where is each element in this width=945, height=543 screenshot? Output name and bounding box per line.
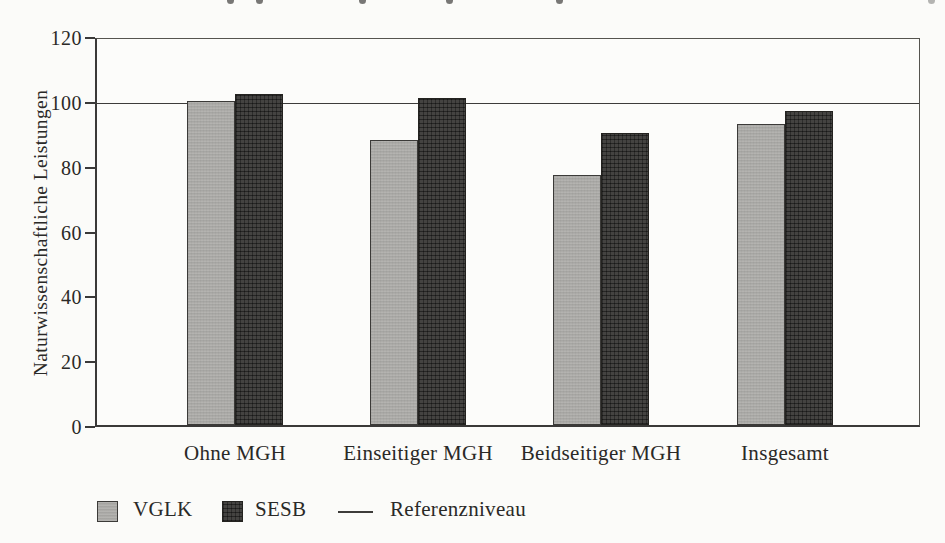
x-label-einseitiger-mgh: Einseitiger MGH [343, 441, 493, 466]
legend-swatch-vglk [97, 501, 118, 522]
y-tick-mark-40 [85, 296, 95, 298]
y-tick-label-60: 60 [24, 220, 82, 246]
legend-reference-line-sample [338, 511, 373, 513]
y-tick-mark-120 [85, 37, 95, 39]
legend-label-sesb: SESB [255, 497, 306, 522]
bar-sesb-2 [418, 98, 466, 425]
y-tick-label-120: 120 [24, 25, 82, 51]
bar-sesb-1 [235, 94, 283, 425]
y-tick-label-80: 80 [24, 155, 82, 181]
legend-label-vglk: VGLK [133, 497, 193, 522]
y-tick-mark-80 [85, 167, 95, 169]
y-tick-label-40: 40 [24, 284, 82, 310]
figure-page: Naturwissenschaftliche Leistungen 020406… [0, 0, 945, 543]
legend-label-referenzniveau: Referenzniveau [390, 497, 526, 522]
y-tick-label-0: 0 [24, 414, 82, 440]
cropped-text-remnant [227, 0, 234, 4]
y-tick-label-100: 100 [24, 90, 82, 116]
x-label-insgesamt: Insgesamt [741, 441, 829, 466]
bar-sesb-4 [785, 111, 833, 425]
x-label-ohne-mgh: Ohne MGH [184, 441, 286, 466]
plot-area [95, 38, 920, 427]
cropped-text-remnant [556, 0, 563, 4]
bar-vglk-1 [187, 101, 235, 425]
cropped-text-remnant [256, 0, 263, 4]
y-tick-mark-20 [85, 361, 95, 363]
bar-sesb-3 [601, 133, 649, 425]
y-tick-mark-100 [85, 102, 95, 104]
cropped-text-remnant [446, 0, 453, 4]
legend-swatch-sesb [222, 501, 243, 522]
bar-vglk-2 [370, 140, 418, 425]
x-label-beidseitiger-mgh: Beidseitiger MGH [521, 441, 682, 466]
y-tick-mark-60 [85, 232, 95, 234]
cropped-text-remnant [928, 0, 935, 4]
y-tick-label-20: 20 [24, 349, 82, 375]
bar-vglk-4 [737, 124, 785, 425]
y-tick-mark-0 [85, 426, 95, 428]
bar-vglk-3 [553, 175, 601, 425]
cropped-text-remnant [359, 0, 366, 4]
